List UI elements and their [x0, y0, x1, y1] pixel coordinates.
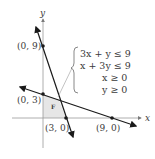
system-brace-icon: [71, 47, 78, 93]
point-0-3: [41, 92, 45, 96]
line-3x-plus-y-eq-9: [36, 27, 73, 137]
region-marker: F: [51, 103, 56, 110]
point-0-9: [41, 44, 45, 48]
inequality-1: 3x + y ≤ 9: [80, 48, 131, 59]
label-0-9: (0, 9): [17, 41, 41, 51]
label-3-0: (3, 0): [45, 123, 69, 133]
y-axis-label: y: [39, 8, 46, 18]
leader-line: [58, 68, 72, 97]
inequality-3: x ≥ 0: [102, 72, 127, 83]
inequality-2: x + 3y ≤ 9: [80, 60, 131, 71]
inequality-4: y ≥ 0: [101, 84, 127, 95]
x-axis-label: x: [145, 113, 150, 123]
point-9-0: [110, 116, 114, 120]
feasible-region-diagram: y x (0, 9) (0, 3) (3, 0) (9, 0) F 3x + y…: [0, 0, 155, 159]
label-9-0: (9, 0): [96, 123, 120, 133]
label-0-3: (0, 3): [17, 95, 41, 105]
point-3-0: [64, 116, 68, 120]
